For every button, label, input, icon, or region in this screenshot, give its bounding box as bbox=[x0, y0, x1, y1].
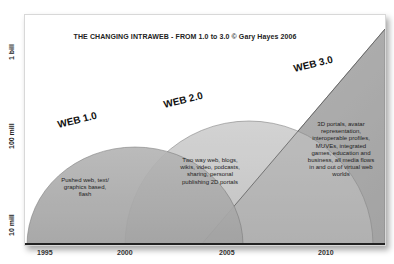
x-label-2010: 2010 bbox=[318, 249, 334, 256]
x-label-2000: 2000 bbox=[117, 249, 133, 256]
x-label-2005: 2005 bbox=[219, 249, 235, 256]
web1-description: Pushed web, text/ graphics based, flash bbox=[57, 177, 113, 199]
web2-description: Two way web, blogs, wikis, video, podcas… bbox=[177, 157, 243, 186]
y-label-1-bill: 1 bill bbox=[8, 44, 15, 60]
x-label-1995: 1995 bbox=[37, 249, 53, 256]
diagram-title: THE CHANGING INTRAWEB - FROM 1.0 to 3.0 … bbox=[25, 33, 345, 40]
web3-description: 3D portals, avatar representation, inter… bbox=[307, 121, 375, 179]
y-label-10-mill: 10 mill bbox=[8, 214, 15, 236]
x-axis-baseline bbox=[25, 243, 385, 245]
diagram-panel: THE CHANGING INTRAWEB - FROM 1.0 to 3.0 … bbox=[24, 14, 386, 246]
y-label-100-mill: 100 mill bbox=[8, 123, 15, 149]
